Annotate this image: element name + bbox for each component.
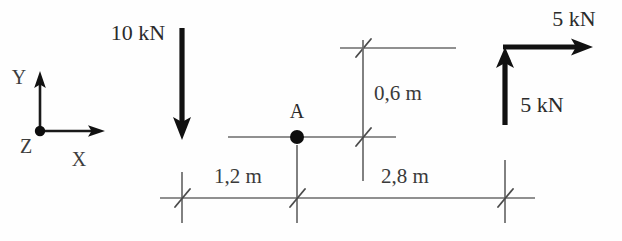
point-a-dot-icon — [290, 130, 304, 144]
point-label-a: A — [290, 100, 305, 122]
force-diagram-svg: Y X Z 10 kN 0,6 m A — [0, 0, 622, 241]
force-arrow-10kn-down — [173, 28, 191, 140]
dimension-label-1-2m: 1,2 m — [214, 164, 262, 188]
point-a-marker — [290, 130, 304, 144]
dimension-label-2-8m: 2,8 m — [381, 164, 429, 188]
dimension-label-0-6m: 0,6 m — [374, 81, 422, 105]
origin-z-dot-icon — [35, 126, 45, 136]
force-label-10kn: 10 kN — [111, 20, 166, 45]
force-diagram-canvas: Y X Z 10 kN 0,6 m A — [0, 0, 622, 241]
axis-label-x: X — [72, 148, 87, 170]
force-label-5kn-up: 5 kN — [520, 92, 564, 117]
axis-label-z: Z — [20, 135, 32, 157]
force-label-5kn-right: 5 kN — [552, 6, 596, 31]
coordinate-system-triad — [34, 71, 105, 137]
axis-label-y: Y — [12, 66, 26, 88]
